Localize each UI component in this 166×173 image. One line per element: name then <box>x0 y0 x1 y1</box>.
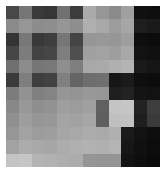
heatmap-cell <box>109 60 122 73</box>
heatmap-cell <box>44 100 57 113</box>
heatmap-cell <box>32 19 45 32</box>
heatmap-cell <box>147 73 160 86</box>
heatmap-cell <box>109 73 122 86</box>
heatmap-cell <box>6 154 19 167</box>
heatmap-cell <box>96 60 109 73</box>
heatmap-cell <box>6 113 19 126</box>
heatmap-cell <box>134 73 147 86</box>
heatmap-cell <box>121 6 134 19</box>
heatmap-cell <box>70 140 83 153</box>
heatmap-cell <box>109 127 122 140</box>
heatmap-cell <box>121 33 134 46</box>
heatmap-cell <box>134 19 147 32</box>
heatmap-cell <box>96 140 109 153</box>
heatmap-cell <box>70 60 83 73</box>
heatmap-cell <box>121 73 134 86</box>
heatmap-cell <box>57 6 70 19</box>
heatmap-cell <box>57 73 70 86</box>
heatmap-cell <box>83 60 96 73</box>
heatmap-cell <box>83 6 96 19</box>
heatmap-cell <box>83 140 96 153</box>
heatmap-cell <box>109 100 122 113</box>
heatmap-cell <box>70 100 83 113</box>
heatmap-cell <box>96 100 109 113</box>
heatmap-cell <box>19 113 32 126</box>
heatmap-cell <box>109 19 122 32</box>
heatmap-cell <box>70 46 83 59</box>
heatmap-cell <box>19 100 32 113</box>
heatmap-cell <box>83 46 96 59</box>
heatmap-cell <box>70 6 83 19</box>
heatmap-cell <box>134 140 147 153</box>
heatmap-cell <box>32 87 45 100</box>
heatmap-cell <box>6 73 19 86</box>
heatmap-cell <box>109 46 122 59</box>
heatmap-cell <box>6 100 19 113</box>
heatmap-cell <box>6 127 19 140</box>
heatmap-cell <box>19 127 32 140</box>
heatmap-cell <box>121 87 134 100</box>
heatmap-cell <box>57 60 70 73</box>
heatmap-cell <box>32 60 45 73</box>
heatmap-cell <box>134 46 147 59</box>
heatmap-cell <box>19 6 32 19</box>
heatmap-cell <box>19 33 32 46</box>
heatmap-cell <box>121 154 134 167</box>
heatmap-cell <box>32 113 45 126</box>
heatmap-cell <box>147 127 160 140</box>
heatmap-cell <box>121 140 134 153</box>
heatmap-cell <box>121 127 134 140</box>
heatmap-cell <box>83 127 96 140</box>
heatmap-cell <box>44 46 57 59</box>
heatmap-cell <box>57 46 70 59</box>
heatmap-cell <box>19 46 32 59</box>
heatmap-cell <box>147 140 160 153</box>
heatmap-cell <box>57 127 70 140</box>
heatmap-cell <box>96 19 109 32</box>
heatmap-cell <box>121 19 134 32</box>
heatmap-cell <box>6 46 19 59</box>
heatmap-cell <box>57 19 70 32</box>
heatmap-cell <box>44 87 57 100</box>
heatmap-cell <box>19 154 32 167</box>
heatmap-cell <box>70 33 83 46</box>
heatmap-cell <box>57 154 70 167</box>
heatmap-cell <box>147 33 160 46</box>
heatmap-plot-area <box>6 6 160 167</box>
heatmap-cell <box>109 140 122 153</box>
heatmap-cell <box>147 154 160 167</box>
heatmap-cell <box>109 6 122 19</box>
heatmap-cell <box>109 113 122 126</box>
heatmap-cell <box>57 113 70 126</box>
heatmap-cell <box>147 46 160 59</box>
heatmap-cell <box>121 113 134 126</box>
heatmap-cell <box>96 73 109 86</box>
heatmap-cell <box>83 87 96 100</box>
heatmap-cell <box>44 140 57 153</box>
heatmap-cell <box>44 113 57 126</box>
heatmap-cell <box>44 73 57 86</box>
heatmap-cell <box>121 46 134 59</box>
heatmap-cell <box>147 87 160 100</box>
heatmap-cell <box>147 6 160 19</box>
heatmap-cell <box>70 113 83 126</box>
heatmap-cell <box>109 87 122 100</box>
heatmap-cell <box>83 33 96 46</box>
heatmap-cell <box>32 6 45 19</box>
heatmap-cell <box>134 6 147 19</box>
heatmap-cell <box>96 113 109 126</box>
heatmap-cell <box>32 46 45 59</box>
heatmap-cell <box>32 100 45 113</box>
heatmap-cell <box>70 127 83 140</box>
heatmap-cell <box>57 33 70 46</box>
heatmap-cell <box>121 60 134 73</box>
heatmap-cell <box>134 87 147 100</box>
heatmap-cell <box>57 100 70 113</box>
heatmap-cell <box>109 154 122 167</box>
heatmap-cell <box>6 6 19 19</box>
heatmap-cell <box>96 154 109 167</box>
heatmap-cell <box>134 100 147 113</box>
heatmap-cell <box>83 100 96 113</box>
heatmap-cell <box>6 140 19 153</box>
heatmap-cell <box>19 87 32 100</box>
